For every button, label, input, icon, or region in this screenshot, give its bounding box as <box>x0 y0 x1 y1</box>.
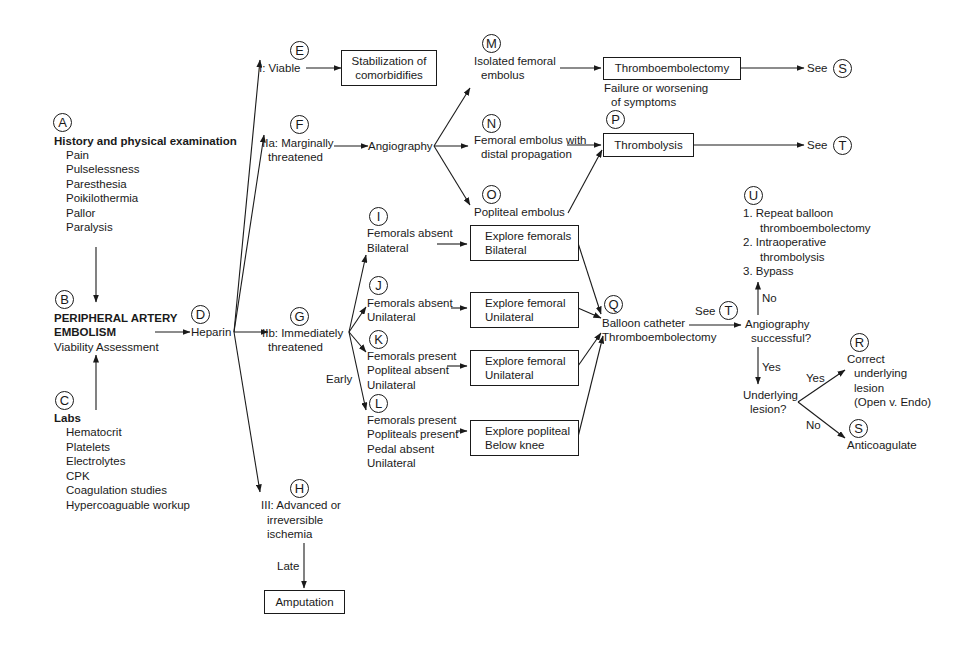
class-iia-line1: IIa: Marginally <box>262 136 334 151</box>
femorals-absent-unilateral-line1: Femorals absent <box>367 296 453 311</box>
amputation-box: Amputation <box>264 590 345 614</box>
class-iii-line3: ischemia <box>267 527 312 542</box>
class-iib-line2: threatened <box>268 340 323 355</box>
u-item2-line1: 2. Intraoperative <box>743 235 826 250</box>
femoral-propagation-line2: distal propagation <box>481 147 572 162</box>
femorals-present-l-line1: Femorals present <box>367 413 456 428</box>
no-label-1: No <box>762 291 777 306</box>
underlying-lesion-line1: Underlying <box>743 388 798 403</box>
femorals-absent-bilateral-line2: Bilateral <box>367 241 409 256</box>
femorals-absent-bilateral-line1: Femorals absent <box>367 226 453 241</box>
marker-s: S <box>849 419 868 438</box>
marker-f: F <box>290 115 309 134</box>
explore-femoral-j-line1: Explore femoral <box>485 296 578 311</box>
symptom-pain: Pain <box>66 148 89 163</box>
stabilization-line1: Stabilization of <box>352 54 427 69</box>
marker-a: A <box>53 113 72 132</box>
popliteal-embolus-label: Popliteal embolus <box>474 205 565 220</box>
isolated-femoral-line1: Isolated femoral <box>474 54 556 69</box>
angiography-successful-line1: Angiography <box>745 317 810 332</box>
symptom-pulselessness: Pulselessness <box>66 162 140 177</box>
marker-see-s: S <box>833 59 852 78</box>
marker-g: G <box>290 307 309 326</box>
embolism-title-line1: PERIPHERAL ARTERY <box>54 311 178 326</box>
femorals-present-k-line3: Unilateral <box>367 378 416 393</box>
correct-lesion-line3: lesion <box>854 381 884 396</box>
lab-hypercoaguable: Hypercoaguable workup <box>66 498 190 513</box>
balloon-catheter-line2: Thromboembolectomy <box>602 330 716 345</box>
early-label: Early <box>326 372 352 387</box>
symptom-poikilothermia: Poikilothermia <box>66 191 138 206</box>
thrombolysis-label: Thrombolysis <box>614 138 682 153</box>
explore-popliteal-line2: Below knee <box>485 438 578 453</box>
explore-femoral-unilateral-box-k: Explore femoral Unilateral <box>470 350 579 386</box>
explore-femoral-unilateral-box-j: Explore femoral Unilateral <box>470 292 579 328</box>
class-i-viable: I: Viable <box>259 61 300 76</box>
class-iii-line2: irreversible <box>267 513 323 528</box>
explore-femorals-line1: Explore femorals <box>485 229 578 244</box>
class-iii-line1: III: Advanced or <box>261 498 341 513</box>
see-t-q-label: See <box>695 304 715 319</box>
see-s-label: See <box>807 61 827 76</box>
class-iib-line1: IIb: Immediately <box>262 326 343 341</box>
marker-j: J <box>369 276 388 295</box>
femorals-present-k-line2: Popliteal absent <box>367 363 449 378</box>
thromboembolectomy-box: Thromboembolectomy <box>603 57 741 80</box>
femorals-present-l-line2: Popliteals present <box>367 427 458 442</box>
see-t-label: See <box>807 138 827 153</box>
class-iia-line2: threatened <box>268 150 323 165</box>
amputation-label: Amputation <box>275 595 333 610</box>
marker-q: Q <box>604 295 623 314</box>
lab-coagulation: Coagulation studies <box>66 483 167 498</box>
lab-cpk: CPK <box>66 469 90 484</box>
no-label-2: No <box>806 418 821 433</box>
marker-d: D <box>191 305 210 324</box>
femorals-absent-unilateral-line2: Unilateral <box>367 310 416 325</box>
late-label: Late <box>277 559 299 574</box>
lab-platelets: Platelets <box>66 440 110 455</box>
u-item1-line2: thromboembolectomy <box>760 221 871 236</box>
u-item1-line1: 1. Repeat balloon <box>743 206 833 221</box>
flowchart-canvas: A History and physical examination Pain … <box>0 0 980 647</box>
marker-r: R <box>850 333 869 352</box>
history-physical-title: History and physical examination <box>54 134 237 149</box>
angiography-label: Angiography <box>368 139 433 154</box>
femorals-present-l-line4: Unilateral <box>367 456 416 471</box>
marker-see-t-q: T <box>719 301 738 320</box>
explore-femoral-k-line1: Explore femoral <box>485 354 578 369</box>
correct-lesion-line2: underlying <box>854 366 907 381</box>
marker-see-t: T <box>833 136 852 155</box>
thromboembolectomy-label: Thromboembolectomy <box>615 61 729 76</box>
marker-p: P <box>606 110 625 129</box>
explore-femoral-j-line2: Unilateral <box>485 310 578 325</box>
marker-o: O <box>482 185 501 204</box>
isolated-femoral-line2: embolus <box>481 68 524 83</box>
yes-label-2: Yes <box>806 371 825 386</box>
femorals-present-l-line3: Pedal absent <box>367 442 434 457</box>
explore-popliteal-box: Explore popliteal Below knee <box>470 420 579 456</box>
symptom-paresthesia: Paresthesia <box>66 177 127 192</box>
labs-title: Labs <box>54 411 81 426</box>
marker-l: L <box>369 394 388 413</box>
heparin-label: Heparin <box>191 325 231 340</box>
marker-c: C <box>55 391 74 410</box>
thrombolysis-box: Thrombolysis <box>603 133 694 157</box>
u-item2-line2: thrombolysis <box>760 250 825 265</box>
marker-b: B <box>55 290 74 309</box>
failure-note-line1: Failure or worsening <box>604 81 708 96</box>
failure-note-line2: of symptoms <box>611 95 676 110</box>
marker-i: I <box>369 207 388 226</box>
u-item3: 3. Bypass <box>743 264 794 279</box>
balloon-catheter-line1: Balloon catheter <box>602 316 685 331</box>
correct-lesion-line1: Correct <box>847 352 885 367</box>
marker-m: M <box>482 34 501 53</box>
explore-popliteal-line1: Explore popliteal <box>485 424 578 439</box>
symptom-paralysis: Paralysis <box>66 220 113 235</box>
marker-k: K <box>369 330 388 349</box>
symptom-pallor: Pallor <box>66 206 95 221</box>
embolism-title-line2: EMBOLISM <box>54 325 116 340</box>
underlying-lesion-line2: lesion? <box>750 402 786 417</box>
stabilization-box: Stabilization of comorbidifies <box>341 50 437 86</box>
correct-lesion-line4: (Open v. Endo) <box>854 395 931 410</box>
explore-femoral-k-line2: Unilateral <box>485 368 578 383</box>
